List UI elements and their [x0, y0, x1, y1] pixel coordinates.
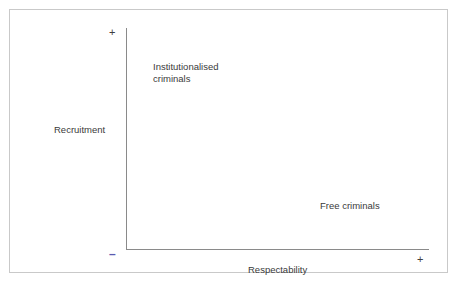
quadrant-label-free-criminals: Free criminals	[320, 200, 380, 212]
axis-origin-negative-marker: –	[109, 248, 116, 260]
y-axis-line	[126, 28, 127, 250]
quadrant-label-institutionalised-criminals: Institutionalised criminals	[153, 61, 218, 85]
y-axis-title: Recruitment	[54, 124, 105, 136]
y-axis-positive-marker: +	[109, 27, 115, 38]
diagram-canvas: + – + Recruitment Respectability Institu…	[0, 0, 459, 282]
x-axis-line	[126, 249, 429, 250]
x-axis-positive-marker: +	[417, 254, 423, 265]
diagram-border-frame: + – + Recruitment Respectability Institu…	[9, 9, 448, 273]
x-axis-title: Respectability	[248, 264, 307, 276]
